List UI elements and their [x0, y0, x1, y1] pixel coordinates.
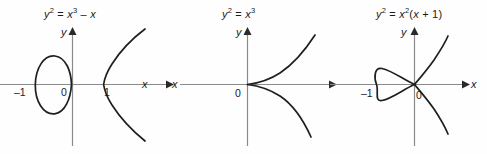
cusp-lower-curve [248, 85, 312, 138]
y-axis-label: y [236, 26, 242, 38]
y-axis [244, 27, 252, 146]
tick-label-minus-one: –1 [14, 86, 26, 98]
cubic-curves-figure: y2 = x3 – x y x –1 0 1 [0, 0, 487, 154]
tick-label-zero: 0 [235, 87, 241, 99]
x-axis-label: x [142, 78, 148, 90]
tick-label-zero: 0 [61, 86, 67, 98]
cusp-upper-curve [248, 35, 316, 85]
curve-panel-elliptic: y2 = x3 – x y x –1 0 1 [0, 0, 180, 154]
equation-label-3: y2 = x2(x + 1) [376, 8, 442, 20]
panel-2-plot [180, 0, 337, 154]
x-axis [330, 81, 470, 89]
curve-panel-nodal: y2 = x2(x + 1) y x –1 0 [330, 0, 487, 154]
x-axis-label: x [471, 78, 477, 90]
tick-label-zero: 0 [416, 89, 422, 101]
tick-label-one: 1 [104, 86, 110, 98]
tick-label-minus-one: –1 [361, 87, 373, 99]
equation-label-2: y2 = x3 [222, 8, 255, 20]
curve-panel-cuspidal: y2 = x3 y x 0 [180, 0, 330, 154]
x-axis-label: x [172, 78, 178, 90]
panel-1-plot [0, 0, 180, 154]
panel-3-plot [330, 0, 487, 154]
y-axis [69, 27, 77, 146]
y-axis-label: y [401, 26, 407, 38]
upper-branch-curve [415, 36, 449, 85]
equation-label-1: y2 = x3 – x [44, 8, 96, 20]
y-axis-label: y [61, 26, 67, 38]
